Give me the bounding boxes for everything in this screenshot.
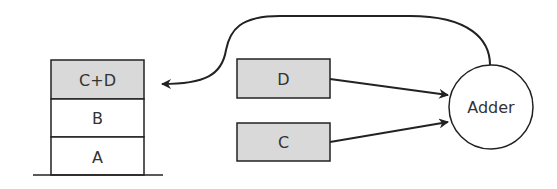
stack-cell-c-plus-d-label: C+D bbox=[79, 71, 116, 90]
stack-cell-a-label: A bbox=[92, 148, 103, 167]
stack: C+D B A bbox=[33, 60, 163, 175]
arrow-c-to-adder bbox=[330, 122, 448, 142]
input-c-label: C bbox=[278, 133, 289, 152]
stack-adder-diagram: C+D B A D C Adder bbox=[0, 0, 557, 189]
adder-label: Adder bbox=[467, 98, 515, 117]
arrow-d-to-adder bbox=[330, 79, 448, 95]
input-d-label: D bbox=[277, 70, 289, 89]
stack-cell-b-label: B bbox=[92, 109, 103, 128]
